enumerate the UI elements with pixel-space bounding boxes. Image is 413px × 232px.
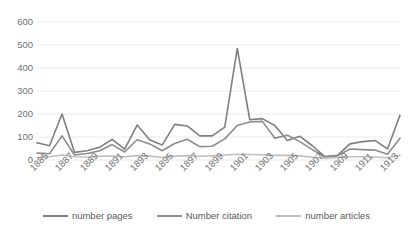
- legend-swatch-icon: [157, 215, 182, 218]
- chart-legend: number pagesNumber citationnumber articl…: [0, 206, 413, 226]
- legend-label: number pages: [72, 211, 133, 221]
- y-axis: 0100200300400500600: [0, 22, 33, 160]
- legend-swatch-icon: [276, 215, 301, 218]
- y-tick-label: 200: [0, 109, 33, 119]
- series-line: [37, 48, 400, 156]
- x-axis: 1885188718891891189318951897189919011903…: [0, 162, 413, 202]
- y-tick-label: 600: [0, 17, 33, 27]
- legend-label: number articles: [305, 211, 370, 221]
- series-lines: [37, 22, 400, 160]
- legend-swatch-icon: [43, 215, 68, 218]
- legend-item[interactable]: number articles: [276, 211, 370, 221]
- y-tick-label: 100: [0, 132, 33, 142]
- y-tick-label: 500: [0, 40, 33, 50]
- legend-label: Number citation: [186, 211, 253, 221]
- y-tick-label: 300: [0, 86, 33, 96]
- legend-item[interactable]: Number citation: [157, 211, 253, 221]
- legend-item[interactable]: number pages: [43, 211, 133, 221]
- line-chart: 0100200300400500600 18851887188918911893…: [0, 0, 413, 232]
- y-tick-label: 400: [0, 63, 33, 73]
- plot-area: [37, 22, 400, 160]
